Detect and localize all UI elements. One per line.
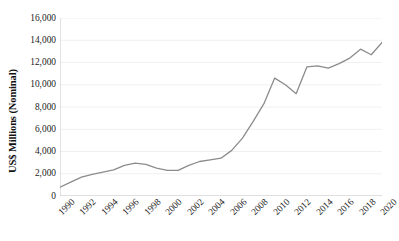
- y-tick-label: 16,000: [10, 13, 56, 23]
- data-series-group: [60, 42, 382, 187]
- y-tick-label: 6,000: [10, 124, 56, 134]
- gridlines: [60, 18, 382, 196]
- x-axis-tick-labels: 1990199219941996199820002002200420062008…: [60, 196, 382, 241]
- y-axis-tick-labels: 02,0004,0006,0008,00010,00012,00014,0001…: [10, 0, 56, 241]
- y-tick-label: 12,000: [10, 57, 56, 67]
- chart-svg: [60, 18, 382, 196]
- y-tick-label: 14,000: [10, 35, 56, 45]
- y-tick-label: 0: [10, 191, 56, 201]
- y-tick-label: 8,000: [10, 102, 56, 112]
- y-tick-label: 2,000: [10, 168, 56, 178]
- series-line-0: [60, 42, 382, 187]
- y-tick-label: 4,000: [10, 146, 56, 156]
- plot-area: [60, 18, 382, 196]
- y-tick-label: 10,000: [10, 79, 56, 89]
